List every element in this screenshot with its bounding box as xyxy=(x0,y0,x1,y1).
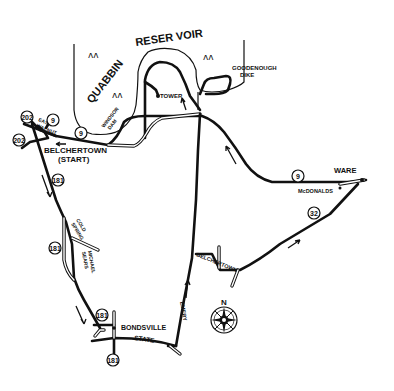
route-shield-32: 32 xyxy=(308,207,320,219)
bondsville-marker-icon xyxy=(112,326,116,330)
direction-arrow-icon xyxy=(288,240,300,248)
svg-text:181: 181 xyxy=(96,312,108,319)
reservoir-label-part2: RESER VOIR xyxy=(135,27,204,48)
svg-text:202: 202 xyxy=(21,114,33,121)
route-shield-202: 202 xyxy=(21,111,33,123)
water-wave-icon: ᴧᴧ xyxy=(112,90,123,100)
svg-text:181: 181 xyxy=(49,245,61,252)
route-shield-181: 181 xyxy=(96,309,108,321)
bondsville-label: BONDSVILLE xyxy=(121,324,166,331)
mcdonalds-label: McDONALDS xyxy=(298,188,333,194)
route-shield-9: 9 xyxy=(292,170,304,182)
dike-label: DIKE xyxy=(240,72,254,78)
state-label: STATE xyxy=(134,334,156,344)
svg-text:32: 32 xyxy=(310,210,318,217)
belchertown-road-label: BELCHERTOWN xyxy=(196,251,238,273)
route-shield-9: 9 xyxy=(47,114,59,126)
direction-arrow-icon xyxy=(181,98,186,110)
svg-text:9: 9 xyxy=(51,117,55,124)
route-shield-202: 202 xyxy=(13,134,25,146)
svg-text:181: 181 xyxy=(52,177,64,184)
route-shield-9: 9 xyxy=(75,127,87,139)
ware-marker-icon xyxy=(360,178,364,182)
svg-text:N: N xyxy=(221,298,227,307)
water-wave-icon: ᴧᴧ xyxy=(88,50,99,60)
route-map: ᴧᴧ ᴧᴧ ᴧᴧ QUABBIN RESER VOIR TOWER GOODEN… xyxy=(0,0,394,391)
ware-junction xyxy=(339,178,365,190)
emery-road xyxy=(176,114,358,346)
route-shield-181: 181 xyxy=(49,242,61,254)
compass-rose-icon: N xyxy=(211,298,237,333)
direction-arrow-icon xyxy=(76,306,86,324)
svg-text:202: 202 xyxy=(13,137,25,144)
mcdonalds-marker-icon xyxy=(339,187,342,190)
goodenough-label: GOODENOUGH xyxy=(232,65,277,71)
svg-text:181: 181 xyxy=(107,357,119,364)
belchertown-start-label: BELCHERTOWN xyxy=(44,146,107,155)
svg-text:9: 9 xyxy=(296,173,300,180)
route-shield-181: 181 xyxy=(52,174,64,186)
route-shield-181: 181 xyxy=(107,354,119,366)
start-label: (START) xyxy=(58,155,90,164)
svg-text:9: 9 xyxy=(79,130,83,137)
ware-label: WARE xyxy=(334,166,357,175)
tower-label: TOWER xyxy=(160,93,183,99)
water-wave-icon: ᴧᴧ xyxy=(203,52,214,62)
